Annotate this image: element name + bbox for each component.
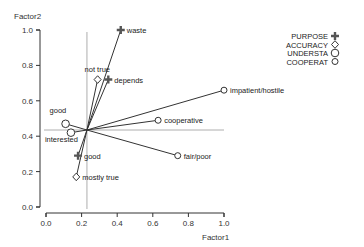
point-marker-diamond — [73, 173, 80, 181]
x-tick-label: 0.6 — [147, 219, 159, 228]
y-axis-title: Factor2 — [14, 12, 42, 21]
x-axis-line — [46, 213, 224, 217]
y-tick-label: 0.4 — [22, 132, 34, 141]
y-tick-label: 0.0 — [22, 203, 34, 212]
vector-line-cooperative — [87, 120, 158, 130]
legend-marker-diamond — [332, 41, 339, 49]
x-axis-title: Factor1 — [202, 233, 230, 242]
legend-marker-circle — [331, 49, 339, 57]
x-tick-label: 0.0 — [40, 219, 52, 228]
point-marker-small-circle — [175, 153, 181, 159]
vector-line-not-true — [87, 80, 98, 130]
point-label: interested — [45, 135, 78, 144]
point-label: good — [50, 106, 67, 115]
vector-line-depends — [87, 80, 108, 130]
y-tick-label: 0.2 — [22, 168, 34, 177]
vector-line-impatient-hostile — [87, 90, 224, 130]
axes: 0.00.20.40.60.81.0 0.00.20.40.60.81.0 Fa… — [14, 12, 230, 242]
legend: PURPOSEACCURACYUNDERSTACOOPERAT — [286, 32, 339, 67]
point-label: mostly true — [82, 173, 119, 182]
point-marker-plus — [117, 26, 125, 34]
point-label: fair/poor — [184, 152, 212, 161]
x-tick-label: 0.8 — [183, 219, 195, 228]
point-label: waste — [126, 26, 147, 35]
point-label: impatient/hostile — [230, 86, 284, 95]
legend-marker-plus — [331, 32, 339, 40]
y-tick-label: 0.8 — [22, 61, 34, 70]
point-marker-small-circle — [221, 87, 227, 93]
point-label: good — [84, 152, 101, 161]
legend-marker-small-circle — [332, 59, 338, 65]
legend-label: COOPERAT — [286, 58, 328, 67]
x-tick-label: 1.0 — [218, 219, 230, 228]
y-ticks: 0.00.20.40.60.81.0 — [22, 26, 40, 212]
y-tick-label: 0.6 — [22, 97, 34, 106]
x-tick-label: 0.2 — [76, 219, 88, 228]
x-ticks: 0.00.20.40.60.81.0 — [40, 213, 230, 228]
y-tick-label: 1.0 — [22, 26, 34, 35]
x-tick-label: 0.4 — [112, 219, 124, 228]
point-marker-diamond — [94, 76, 101, 84]
y-axis-line — [36, 30, 40, 207]
point-marker-plus — [104, 76, 112, 84]
point-marker-small-circle — [155, 117, 161, 123]
point-label: cooperative — [164, 116, 203, 125]
chart: 0.00.20.40.60.81.0 0.00.20.40.60.81.0 Fa… — [0, 0, 364, 247]
point-marker-circle — [62, 120, 70, 128]
point-label: depends — [114, 76, 143, 85]
point-label: not true — [85, 65, 110, 74]
